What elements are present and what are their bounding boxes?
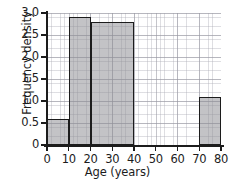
x-axis-tick xyxy=(46,145,47,151)
x-axis-tick xyxy=(220,145,221,151)
x-axis-title: Age (years) xyxy=(0,165,235,179)
y-axis-tick xyxy=(41,34,47,35)
y-axis-tick-label: 1.5 xyxy=(0,71,39,85)
histogram-bar xyxy=(91,22,135,145)
y-axis-tick-label: 0.5 xyxy=(0,115,39,129)
histogram-bar xyxy=(47,119,69,145)
x-axis-tick xyxy=(155,145,156,151)
y-axis-tick xyxy=(41,122,47,123)
histogram-bar xyxy=(69,17,91,145)
y-axis-tick-label: 3.0 xyxy=(0,5,39,19)
y-axis-tick-label: 1.0 xyxy=(0,93,39,107)
histogram-bar xyxy=(199,97,221,145)
x-axis-tick xyxy=(68,145,69,151)
y-axis-tick xyxy=(41,56,47,57)
x-axis-tick xyxy=(177,145,178,151)
x-axis-tick xyxy=(133,145,134,151)
x-axis-tick xyxy=(90,145,91,151)
y-axis-tick-label: 2.0 xyxy=(0,49,39,63)
histogram-chart: Frequency density 00.51.01.52.02.53.0 01… xyxy=(0,0,235,182)
y-axis-tick-label: 2.5 xyxy=(0,27,39,41)
x-axis-tick xyxy=(112,145,113,151)
y-axis-tick xyxy=(41,78,47,79)
x-axis-tick-label: 80 xyxy=(206,152,235,166)
y-axis-tick xyxy=(41,12,47,13)
x-axis-tick xyxy=(199,145,200,151)
y-axis-tick xyxy=(41,100,47,101)
y-axis-tick-label: 0 xyxy=(0,137,39,151)
